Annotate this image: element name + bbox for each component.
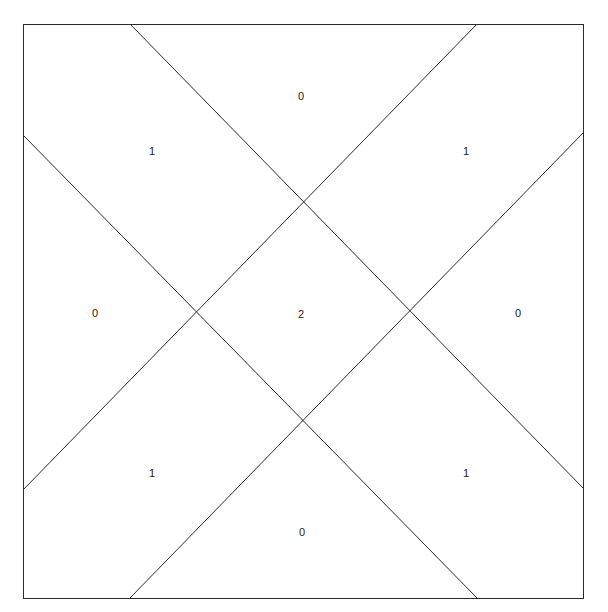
region-label-bottom-left: 1 xyxy=(149,467,155,479)
region-label-center: 2 xyxy=(298,308,304,320)
region-label-right: 0 xyxy=(515,307,521,319)
geometry-figure: 0 1 1 0 2 0 1 1 0 xyxy=(0,0,608,612)
region-label-top: 0 xyxy=(298,90,304,102)
region-label-top-right: 1 xyxy=(463,145,469,157)
region-label-bottom: 0 xyxy=(299,526,305,538)
region-label-left: 0 xyxy=(92,307,98,319)
region-label-top-left: 1 xyxy=(149,145,155,157)
diagram-canvas: 0 1 1 0 2 0 1 1 0 xyxy=(0,0,608,612)
region-label-bottom-right: 1 xyxy=(463,467,469,479)
